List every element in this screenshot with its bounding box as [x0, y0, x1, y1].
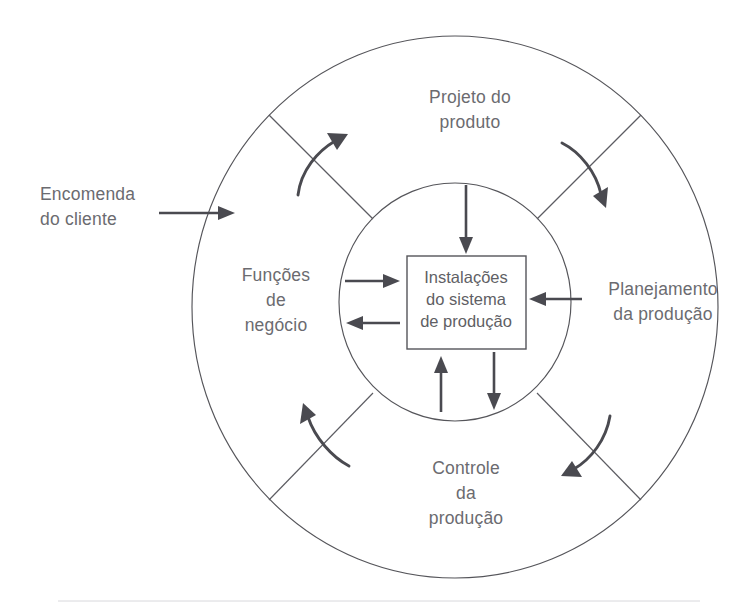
production-planning-line1: Planejamento [608, 279, 717, 299]
production-control-line2: da [456, 483, 476, 503]
core-arrow-left-out [346, 316, 400, 330]
divider-bottom-left [269, 393, 373, 500]
flow-arrow-bottom-to-left [300, 403, 349, 466]
sector-label-business-functions: Funções de negócio [242, 265, 311, 335]
box-label-line1: Instalações [424, 268, 507, 286]
core-arrow-bottom-out [487, 352, 501, 410]
divider-bottom-right [537, 393, 641, 500]
core-arrow-top-in [459, 185, 473, 254]
customer-order-line1: Encomenda [40, 184, 135, 204]
box-label-line3: de produção [420, 312, 512, 330]
core-arrow-left-in [345, 274, 400, 288]
core-arrow-bottom-in [434, 356, 448, 412]
production-system-cycle-diagram: Instalações do sistema de produção [0, 0, 752, 607]
flow-arrow-top-to-right [562, 143, 608, 208]
sector-label-production-control: Controle da produção [429, 458, 504, 528]
sector-label-product-design: Projeto do produto [429, 87, 511, 132]
production-system-box: Instalações do sistema de produção [407, 256, 526, 349]
box-label-line2: do sistema [426, 290, 507, 308]
product-design-line2: produto [440, 112, 501, 132]
business-functions-line1: Funções [242, 265, 311, 285]
business-functions-line2: de [266, 290, 286, 310]
business-functions-line3: negócio [245, 315, 308, 335]
customer-order-label: Encomenda do cliente [40, 184, 135, 229]
product-design-line1: Projeto do [429, 87, 511, 107]
divider-top-left [269, 115, 373, 219]
diagram-canvas: Instalações do sistema de produção [0, 0, 752, 607]
production-control-line3: produção [429, 508, 504, 528]
production-control-line1: Controle [432, 458, 500, 478]
customer-order-arrow [159, 206, 235, 220]
production-planning-line2: da produção [613, 304, 713, 324]
core-arrow-right-in [529, 292, 582, 306]
sector-label-production-planning: Planejamento da produção [608, 279, 717, 324]
customer-order-line2: do cliente [40, 209, 117, 229]
